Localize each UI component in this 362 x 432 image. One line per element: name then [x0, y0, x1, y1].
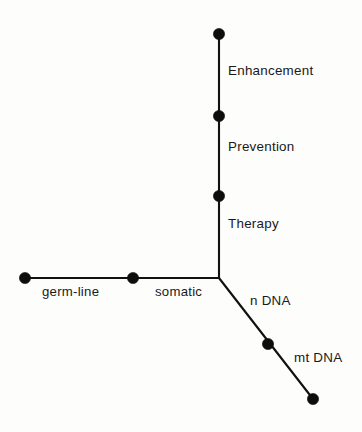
node-prevention-dot	[213, 110, 224, 121]
node-mt-dna-dot	[307, 393, 318, 404]
node-enhancement-dot	[213, 28, 224, 39]
node-germ-line-dot	[19, 272, 30, 283]
diagram-figure: Enhancement Prevention Therapy germ-line…	[0, 0, 362, 432]
label-somatic: somatic	[155, 285, 202, 298]
node-therapy-dot	[213, 190, 224, 201]
label-germ-line: germ-line	[42, 285, 99, 298]
label-prevention: Prevention	[228, 140, 295, 153]
label-therapy: Therapy	[228, 217, 279, 230]
label-enhancement: Enhancement	[228, 64, 313, 77]
node-n-dna-dot	[262, 338, 273, 349]
node-somatic-dot	[127, 272, 138, 283]
label-mt-dna: mt DNA	[294, 351, 342, 364]
label-n-dna: n DNA	[250, 294, 291, 307]
